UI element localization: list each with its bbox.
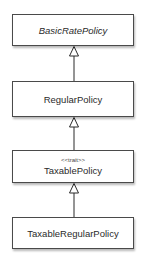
generalization-arrow-regular-to-basic: [70, 47, 79, 82]
class-name: TaxableRegularPolicy: [27, 228, 118, 239]
class-name: RegularPolicy: [44, 94, 103, 105]
class-name: BasicRatePolicy: [39, 25, 108, 36]
class-name: TaxablePolicy: [44, 165, 102, 176]
generalization-arrow-taxable-to-regular: [70, 118, 79, 151]
generalization-arrow-taxregular-to-taxable: [70, 184, 79, 218]
class-box-basic-rate-policy: BasicRatePolicy: [12, 14, 134, 46]
class-box-taxable-policy: <<trait>> TaxablePolicy: [12, 150, 134, 183]
class-box-regular-policy: RegularPolicy: [12, 81, 134, 117]
class-box-taxable-regular-policy: TaxableRegularPolicy: [12, 217, 134, 249]
stereotype-label: <<trait>>: [61, 157, 85, 164]
